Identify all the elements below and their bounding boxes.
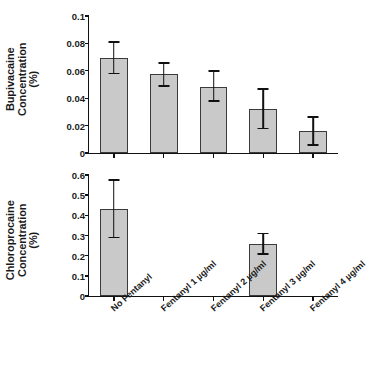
plot-area-bupivacaine: 00.020.040.060.080.1 bbox=[88, 16, 338, 154]
y-tick-label: 0 bbox=[43, 291, 89, 302]
chart-panel-chloroprocaine: Chloroprocaine Concentration (%) 00.10.2… bbox=[0, 175, 345, 365]
error-bar-cap-lower bbox=[258, 253, 269, 255]
error-bar bbox=[113, 180, 115, 237]
error-bar bbox=[113, 42, 115, 74]
y-axis-title-bupivacaine: Bupivacaine Concentration (%) bbox=[5, 19, 40, 139]
error-bar-cap-lower bbox=[208, 100, 219, 102]
error-bar-cap-lower bbox=[158, 85, 169, 87]
x-tick-mark bbox=[113, 153, 114, 158]
error-bar bbox=[213, 71, 215, 101]
error-bar-cap-upper bbox=[258, 233, 269, 235]
y-tick-label: 0.1 bbox=[43, 11, 89, 22]
y-axis-title-chloroprocaine: Chloroprocaine Concentration (%) bbox=[5, 180, 40, 300]
error-bar bbox=[312, 117, 314, 145]
error-bar-cap-upper bbox=[108, 41, 119, 43]
y-tick-label: 0 bbox=[43, 148, 89, 159]
error-bar-cap-upper bbox=[208, 70, 219, 72]
chart-panel-bupivacaine: Bupivacaine Concentration (%) 00.020.040… bbox=[0, 0, 345, 175]
x-tick-mark bbox=[213, 153, 214, 158]
x-tick-mark bbox=[163, 153, 164, 158]
y-tick-label: 0.04 bbox=[43, 93, 89, 104]
error-bar bbox=[263, 89, 265, 128]
y-tick-label: 0.02 bbox=[43, 120, 89, 131]
y-tick-label: 0.06 bbox=[43, 65, 89, 76]
y-tick-label: 0.3 bbox=[43, 230, 89, 241]
y-tick-label: 0.6 bbox=[43, 170, 89, 181]
y-tick-label: 0.4 bbox=[43, 210, 89, 221]
error-bar-cap-upper bbox=[158, 62, 169, 64]
error-bar-cap-lower bbox=[308, 144, 319, 146]
error-bar-cap-upper bbox=[258, 88, 269, 90]
error-bar bbox=[163, 63, 165, 86]
x-tick-mark bbox=[263, 153, 264, 158]
y-tick-label: 0.1 bbox=[43, 270, 89, 281]
error-bar bbox=[263, 233, 265, 253]
y-tick-label: 0.08 bbox=[43, 38, 89, 49]
error-bar-cap-lower bbox=[108, 73, 119, 75]
y-tick-label: 0.2 bbox=[43, 250, 89, 261]
y-tick-label: 0.5 bbox=[43, 190, 89, 201]
error-bar-cap-lower bbox=[258, 128, 269, 130]
error-bar-cap-lower bbox=[108, 237, 119, 239]
error-bar-cap-upper bbox=[108, 179, 119, 181]
x-tick-mark bbox=[312, 153, 313, 158]
error-bar-cap-upper bbox=[308, 116, 319, 118]
